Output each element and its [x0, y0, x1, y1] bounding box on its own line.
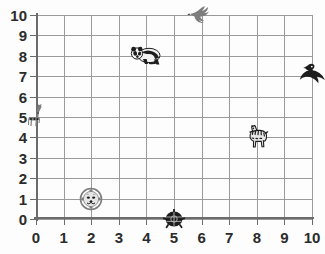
turtle-icon: [163, 209, 185, 229]
gridline-vertical: [312, 15, 313, 219]
gridline-horizontal: [36, 199, 312, 200]
lion-face-icon: [79, 187, 103, 211]
y-axis-tick-label: 6: [0, 90, 27, 105]
y-axis-tick-label: 2: [0, 171, 27, 186]
x-axis-tick-label: 0: [22, 230, 50, 245]
x-axis-tick-label: 9: [270, 230, 298, 245]
gridline-horizontal: [36, 178, 312, 179]
x-tick-mark: [202, 219, 203, 225]
coordinate-grid-figure: 012345678910012345678910: [0, 0, 325, 254]
gridline-horizontal: [36, 158, 312, 159]
gridline-horizontal: [36, 35, 312, 36]
y-axis-tick-label: 4: [0, 130, 27, 145]
y-axis-tick-label: 0: [0, 212, 27, 227]
x-axis-tick-label: 8: [243, 230, 271, 245]
x-tick-mark: [284, 219, 285, 225]
x-axis-tick-label: 1: [50, 230, 78, 245]
x-tick-mark: [257, 219, 258, 225]
x-axis-tick-label: 5: [160, 230, 188, 245]
y-axis-tick-label: 10: [0, 8, 27, 23]
x-tick-mark: [229, 219, 230, 225]
x-tick-mark: [119, 219, 120, 225]
y-axis-tick-label: 7: [0, 69, 27, 84]
x-tick-mark: [64, 219, 65, 225]
x-axis-tick-label: 7: [215, 230, 243, 245]
bird-icon: [187, 5, 217, 25]
x-tick-mark: [146, 219, 147, 225]
gridline-horizontal: [36, 56, 312, 57]
x-tick-mark: [312, 219, 313, 225]
giraffe-icon: [25, 104, 47, 130]
x-axis-tick-label: 3: [105, 230, 133, 245]
gridline-horizontal: [36, 15, 312, 16]
gridline-horizontal: [36, 97, 312, 98]
y-axis-tick-label: 1: [0, 192, 27, 207]
plot-area: 012345678910012345678910: [36, 15, 312, 219]
panda-icon: [129, 46, 163, 66]
x-axis-tick-label: 6: [188, 230, 216, 245]
y-axis-tick-label: 9: [0, 28, 27, 43]
zebra-icon: [244, 125, 270, 149]
x-axis-tick-label: 10: [298, 230, 325, 245]
seal-icon: [297, 63, 325, 89]
x-axis-tick-label: 4: [132, 230, 160, 245]
x-axis-tick-label: 2: [77, 230, 105, 245]
y-axis-tick-label: 5: [0, 110, 27, 125]
y-axis-tick-label: 3: [0, 151, 27, 166]
y-axis-tick-label: 8: [0, 49, 27, 64]
gridline-horizontal: [36, 137, 312, 138]
x-tick-mark: [91, 219, 92, 225]
gridline-horizontal: [36, 117, 312, 118]
gridline-horizontal: [36, 76, 312, 77]
